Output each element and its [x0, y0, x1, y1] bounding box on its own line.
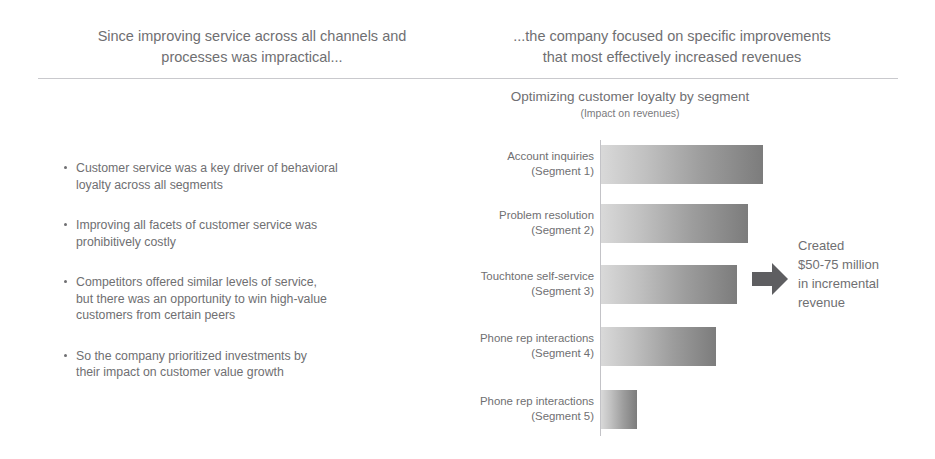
callout-text: Created $50-75 million in incremental re… — [798, 236, 923, 312]
bar-label-4-segment: (Segment 4) — [424, 346, 594, 361]
bullet-dot-icon — [64, 354, 67, 357]
callout-line-3: in incremental — [798, 274, 923, 293]
list-item: So the company prioritized investments b… — [64, 348, 424, 381]
bullet-3-line-3: customers from certain peers — [76, 307, 424, 324]
bar-label-segment-3: Touchtone self-service (Segment 3) — [424, 265, 594, 299]
header-left-line-2: processes was impractical... — [42, 47, 462, 68]
bar-label-segment-1: Account inquiries (Segment 1) — [424, 145, 594, 179]
bar-segment-1 — [601, 145, 763, 184]
list-item: Competitors offered similar levels of se… — [64, 274, 424, 324]
bar-row: Phone rep interactions (Segment 5) — [440, 390, 820, 429]
callout-line-2: $50-75 million — [798, 255, 923, 274]
callout: Created $50-75 million in incremental re… — [752, 236, 922, 336]
bar-label-segment-5: Phone rep interactions (Segment 5) — [424, 390, 594, 424]
bullet-dot-icon — [64, 280, 67, 283]
bar-label-1-name: Account inquiries — [507, 150, 594, 162]
bar-label-2-name: Problem resolution — [499, 209, 594, 221]
callout-line-4: revenue — [798, 293, 923, 312]
bar-label-2-segment: (Segment 2) — [424, 223, 594, 238]
bullet-2-line-1: Improving all facets of customer service… — [76, 217, 424, 234]
callout-line-1: Created — [798, 236, 923, 255]
header-row: Since improving service across all chann… — [0, 26, 935, 74]
bullet-2-line-2: prohibitively costly — [76, 234, 424, 251]
bullet-3-line-1: Competitors offered similar levels of se… — [76, 274, 424, 291]
bullet-4-line-2: their impact on customer value growth — [76, 364, 424, 381]
chart-title: Optimizing customer loyalty by segment — [440, 88, 820, 106]
bar-label-3-name: Touchtone self-service — [481, 270, 594, 282]
bar-label-4-name: Phone rep interactions — [480, 332, 594, 344]
list-item: Improving all facets of customer service… — [64, 217, 424, 250]
bar-label-segment-4: Phone rep interactions (Segment 4) — [424, 327, 594, 361]
header-left-line-1: Since improving service across all chann… — [42, 26, 462, 47]
chart-subtitle: (Impact on revenues) — [440, 106, 820, 120]
header-left: Since improving service across all chann… — [42, 26, 462, 68]
header-right-line-2: that most effectively increased revenues — [462, 47, 882, 68]
right-arrow-icon — [752, 262, 788, 296]
bullet-list: Customer service was a key driver of beh… — [64, 160, 424, 405]
list-item: Customer service was a key driver of beh… — [64, 160, 424, 193]
bar-segment-5 — [601, 390, 637, 429]
header-right-line-1: ...the company focused on specific impro… — [462, 26, 882, 47]
bullet-4-line-1: So the company prioritized investments b… — [76, 348, 424, 365]
bar-label-5-segment: (Segment 5) — [424, 409, 594, 424]
bar-label-1-segment: (Segment 1) — [424, 164, 594, 179]
bar-row: Account inquiries (Segment 1) — [440, 145, 820, 184]
bar-segment-3 — [601, 265, 737, 304]
bullet-3-line-2: but there was an opportunity to win high… — [76, 291, 424, 308]
bullet-dot-icon — [64, 223, 67, 226]
bar-segment-4 — [601, 327, 716, 366]
bullet-dot-icon — [64, 166, 67, 169]
bar-label-3-segment: (Segment 3) — [424, 284, 594, 299]
bar-segment-2 — [601, 204, 748, 243]
bullet-1-line-2: loyalty across all segments — [76, 177, 424, 194]
slide-canvas: Since improving service across all chann… — [0, 0, 935, 459]
bar-label-segment-2: Problem resolution (Segment 2) — [424, 204, 594, 238]
bullet-1-line-1: Customer service was a key driver of beh… — [76, 160, 424, 177]
header-right: ...the company focused on specific impro… — [462, 26, 882, 68]
header-divider — [38, 78, 898, 79]
bar-label-5-name: Phone rep interactions — [480, 395, 594, 407]
